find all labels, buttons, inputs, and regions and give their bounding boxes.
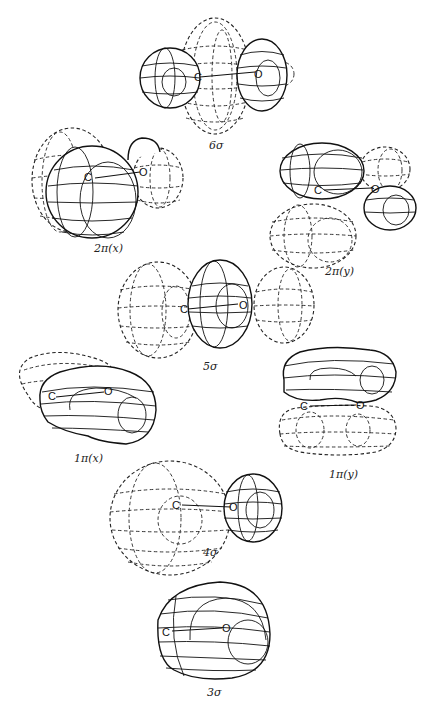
- orbital-4sigma: C O: [110, 461, 282, 575]
- label-3sigma: 3σ: [207, 686, 222, 699]
- label-2pi-x: 2π(x): [94, 242, 123, 255]
- svg-text:C: C: [172, 499, 180, 511]
- orbital-2pi-x: C O: [32, 128, 183, 238]
- orbital-2pi-y: C O: [270, 143, 416, 268]
- svg-text:O: O: [139, 166, 148, 178]
- svg-text:C: C: [194, 71, 202, 83]
- label-6sigma: 6σ: [209, 139, 224, 152]
- label-1pi-y: 1π(y): [329, 468, 358, 481]
- svg-text:O: O: [229, 501, 238, 513]
- orbital-1pi-x: C O: [19, 352, 156, 444]
- label-2pi-y: 2π(y): [325, 265, 354, 278]
- svg-text:O: O: [371, 183, 380, 195]
- svg-text:O: O: [222, 622, 231, 634]
- svg-text:C: C: [162, 626, 170, 638]
- svg-text:C: C: [300, 400, 308, 412]
- svg-text:O: O: [356, 399, 365, 411]
- svg-text:C: C: [48, 390, 56, 402]
- label-5sigma: 5σ: [203, 360, 218, 373]
- svg-text:C: C: [84, 171, 92, 183]
- svg-text:C: C: [180, 303, 188, 315]
- label-4sigma: 4σ: [203, 546, 218, 559]
- orbital-5sigma: C O: [118, 260, 314, 358]
- orbital-6sigma: C O: [140, 18, 294, 134]
- svg-text:O: O: [239, 299, 248, 311]
- orbital-diagram: C O C O: [0, 0, 423, 713]
- orbital-3sigma: C O: [158, 582, 270, 679]
- svg-text:O: O: [254, 68, 263, 80]
- label-1pi-x: 1π(x): [74, 452, 103, 465]
- svg-text:C: C: [314, 184, 322, 196]
- svg-text:O: O: [104, 385, 113, 397]
- orbital-1pi-y: C O: [279, 347, 396, 455]
